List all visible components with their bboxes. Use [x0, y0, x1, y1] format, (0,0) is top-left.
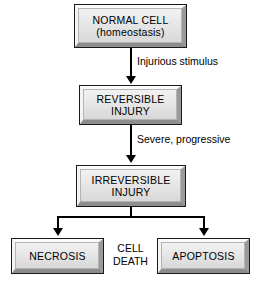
node-normal-cell: NORMAL CELL (homeostasis) [74, 4, 187, 48]
connector-branch-bar [57, 216, 205, 218]
edge-label-severe-progressive: Severe, progressive [137, 133, 230, 146]
node-label-necrosis: NECROSIS [27, 250, 87, 263]
connector-normal-to-reversible [130, 48, 132, 78]
connector-reversible-to-irreversible [130, 125, 132, 157]
arrowhead-to-apoptosis [199, 228, 209, 236]
diagram-canvas: NORMAL CELL (homeostasis) Injurious stim… [0, 0, 261, 281]
edge-label-injurious-stimulus: Injurious stimulus [137, 55, 218, 68]
node-label-irreversible-injury: IRREVERSIBLE INJURY [90, 174, 173, 199]
node-apoptosis: APOPTOSIS [157, 238, 250, 274]
arrowhead-normal-to-reversible [126, 76, 136, 84]
arrowhead-reversible-to-irreversible [126, 155, 136, 163]
arrowhead-to-necrosis [53, 228, 63, 236]
caption-cell-death: CELL DEATH [105, 242, 156, 268]
node-necrosis: NECROSIS [11, 238, 104, 274]
node-label-normal-cell: NORMAL CELL (homeostasis) [91, 14, 171, 39]
node-reversible-injury: REVERSIBLE INJURY [79, 85, 182, 125]
node-irreversible-injury: IRREVERSIBLE INJURY [76, 165, 186, 207]
node-label-reversible-injury: REVERSIBLE INJURY [95, 93, 167, 118]
node-label-apoptosis: APOPTOSIS [170, 250, 236, 263]
